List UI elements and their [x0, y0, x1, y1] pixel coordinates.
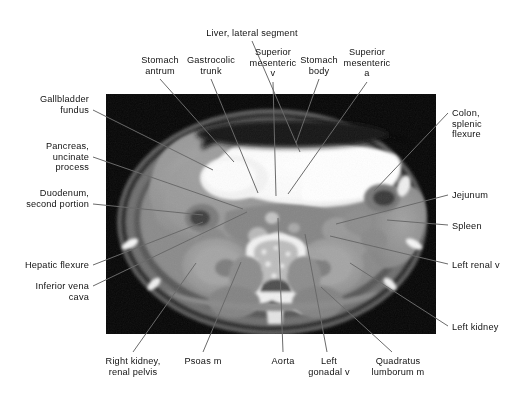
label-inferior-vena-cava: Inferior vena cava [0, 281, 89, 302]
label-superior-mesenteric-a: Superior mesenteric a [287, 47, 447, 79]
ct-scan-graphic [106, 94, 436, 334]
label-quadratus-lumborum-m: Quadratus lumborum m [318, 356, 478, 377]
label-left-kidney: Left kidney [452, 322, 518, 333]
label-duodenum-second-portion: Duodenum, second portion [0, 188, 89, 209]
label-jejunum: Jejunum [452, 190, 518, 201]
label-left-renal-v: Left renal v [452, 260, 518, 271]
ct-anatomy-figure: Liver, lateral segmentStomach antrumGast… [0, 0, 518, 394]
label-gallbladder-fundus: Gallbladder fundus [0, 94, 89, 115]
label-pancreas-uncinate-process: Pancreas, uncinate process [0, 141, 89, 173]
ct-scan-image [106, 94, 436, 334]
label-hepatic-flexure: Hepatic flexure [0, 260, 89, 271]
label-colon-splenic-flexure: Colon, splenic flexure [452, 108, 518, 140]
label-liver-lateral-segment: Liver, lateral segment [172, 28, 332, 39]
label-spleen: Spleen [452, 221, 518, 232]
